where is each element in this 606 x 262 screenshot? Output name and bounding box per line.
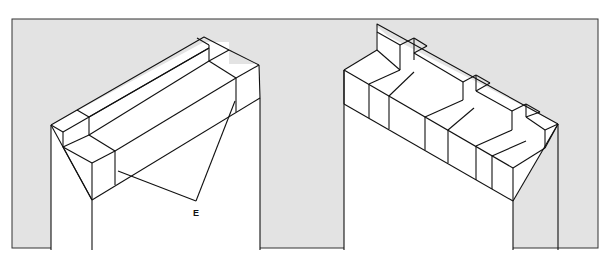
- label-e: E: [193, 208, 199, 218]
- figure: E: [0, 0, 606, 262]
